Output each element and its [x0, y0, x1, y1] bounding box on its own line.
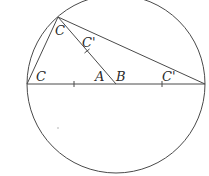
label-point-b: B	[115, 69, 126, 84]
label-right-mark: C'	[162, 69, 176, 84]
label-apex-angle: C	[55, 23, 65, 38]
label-point-a: A	[94, 69, 104, 84]
label-left-angle: C	[36, 69, 46, 84]
geometry-diagram: C C' C A B C'	[0, 0, 209, 176]
triangle-side-right	[58, 17, 205, 84]
label-median-mark: C'	[82, 35, 96, 50]
scan-artifact-dot	[57, 127, 58, 128]
